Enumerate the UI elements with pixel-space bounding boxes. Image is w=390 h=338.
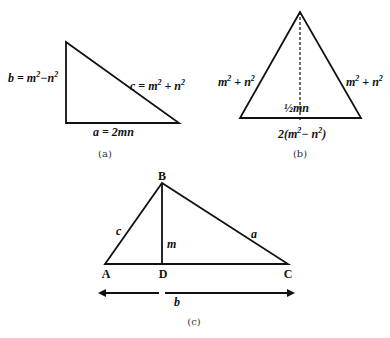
arrowhead-left-icon: [98, 289, 106, 297]
base-label: 2(m2− n2): [277, 126, 326, 141]
right-side-label: m2 + n2: [346, 74, 383, 89]
side-c-label: c = m2 + n2: [130, 78, 185, 93]
vertex-d-label: D: [159, 267, 168, 281]
vertex-a-label: A: [102, 267, 111, 281]
vertex-c-label: C: [284, 267, 293, 281]
side-a-label: a = 2mn: [93, 125, 134, 139]
figure-a: b = m2−n2 c = m2 + n2 a = 2mn (a): [8, 42, 185, 159]
side-b-label: b = m2−n2: [8, 70, 58, 85]
base-b-arrow: [98, 289, 295, 297]
figure-c: B A D C c a m b (c): [98, 169, 295, 327]
side-c-label: c: [116, 224, 122, 238]
altitude-m-label: m: [167, 237, 176, 251]
base-b-label: b: [174, 295, 180, 309]
caption-c: (c): [187, 316, 201, 327]
height-label: ½mn: [284, 101, 309, 115]
caption-b: (b): [293, 148, 307, 159]
left-side-label: m2 + n2: [218, 74, 255, 89]
figure-b: m2 + n2 m2 + n2 ½mn 2(m2− n2) (b): [218, 12, 383, 159]
caption-a: (a): [98, 148, 112, 159]
arrowhead-right-icon: [287, 289, 295, 297]
vertex-b-label: B: [158, 169, 166, 183]
diagram-canvas: b = m2−n2 c = m2 + n2 a = 2mn (a) m2 + n…: [0, 0, 390, 338]
triangle-abc: [105, 183, 288, 264]
side-a-label: a: [251, 227, 257, 241]
